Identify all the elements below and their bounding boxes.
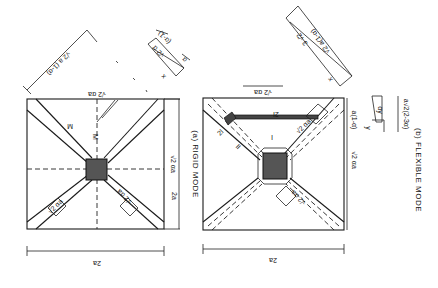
label-b-band-width-2: √2 αa: [289, 189, 306, 206]
label-inset-c: α: [180, 56, 188, 64]
label-region-M2: M: [92, 134, 99, 140]
column-a: [86, 159, 107, 180]
label-height: 2a: [171, 192, 178, 200]
label-region-II: II: [234, 143, 242, 151]
label-diag-length: √2 a (1-α): [45, 50, 72, 77]
caption-rigid-mode: (a) RIGID MODE: [191, 130, 200, 197]
label-b-top-dim: √2 αa: [254, 89, 272, 96]
label-region-I: I: [271, 134, 273, 141]
label-inset-b: √2 α: [151, 44, 166, 59]
caption-flexible-mode: (b) FLEXIBLE MODE: [414, 128, 423, 212]
column-b: [263, 153, 287, 179]
label-edge-beam-2: 2l: [216, 128, 225, 137]
label-region-M1: M: [67, 123, 73, 130]
label-inset-a: (α-1): [156, 29, 172, 45]
label-b-inset-b: 3 √2: [295, 32, 309, 47]
label-band-width-a: √2 αa: [115, 188, 132, 205]
label-edge-beam-1: 2l: [273, 111, 279, 118]
label-side-inset-c: αy: [376, 106, 384, 114]
label-side-dim: √2 αa: [170, 155, 177, 173]
label-b-side-dim-b: a(1-α): [350, 111, 358, 130]
panel-rigid-mode: √2 a (1-α) √2 αa M M √2 αa 2a √2 αa √2 α…: [23, 29, 200, 267]
label-b-width: 2a: [269, 257, 277, 264]
label-top-dim: √2 αa: [88, 91, 106, 98]
label-inset-x: x: [159, 73, 167, 81]
label-width: 2a: [93, 260, 101, 267]
label-b-side-dim-a: √2 αa: [351, 151, 358, 169]
label-side-inset-y: y: [364, 126, 372, 130]
panel-flexible-mode: √2 αa 2l 2l I II √2 αa √2 αa a(1-α) √2 α…: [203, 6, 423, 264]
yield-line-figure: √2 a (1-α) √2 αa M M √2 αa 2a √2 αa √2 α…: [0, 0, 438, 288]
label-side-inset: a√2(2-3α): [402, 99, 410, 129]
